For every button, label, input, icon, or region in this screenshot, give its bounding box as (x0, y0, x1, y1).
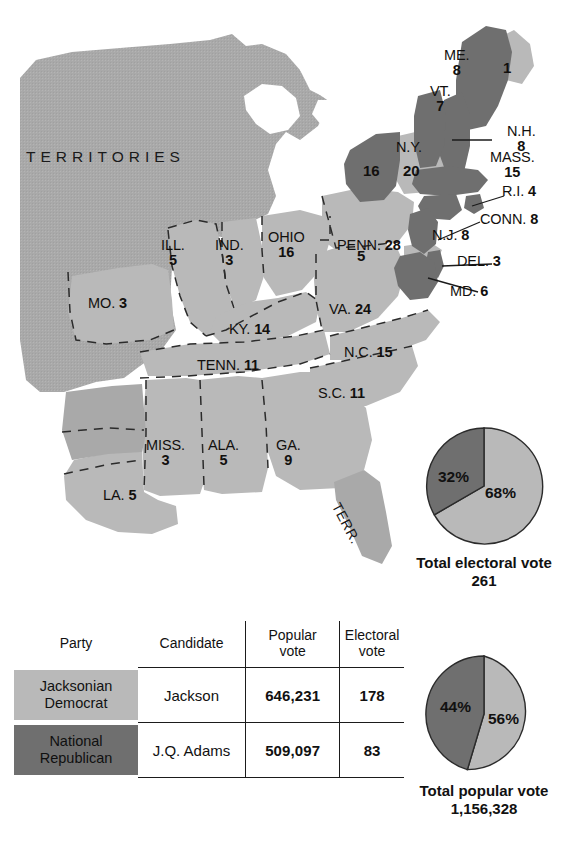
popular-pie-caption: Total popular vote (392, 782, 576, 800)
electoral-pie-graphic: 32% 68% (422, 424, 546, 548)
header-electoral-vote: Electoral vote (340, 621, 404, 668)
candidate-jq-adams: J.Q. Adams (138, 723, 246, 778)
popular-pie-total: 1,156,328 (392, 800, 576, 817)
state-label-mass: MASS. 15 (490, 150, 535, 180)
party-cell-national-republican: National Republican (14, 723, 138, 778)
electoral-vote-jq-adams: 83 (340, 723, 404, 778)
electoral-pie-adams-pct: 32% (438, 468, 469, 486)
party-name-line2: Republican (40, 750, 113, 767)
table-row: National Republican J.Q. Adams 509,097 8… (14, 723, 404, 778)
state-label-mo: MO. 3 (88, 296, 127, 311)
state-label-ny-jackson-votes: 20 (403, 163, 420, 179)
election-map-figure: TERRITORIES ME. 8 1 N.H. 8 VT. 7 MASS. 1… (0, 0, 579, 857)
popular-vote-jackson: 646,231 (246, 668, 340, 723)
state-label-miss: MISS. 3 (146, 438, 185, 468)
electoral-pie-caption: Total electoral vote (392, 554, 576, 572)
header-electoral-line1: Electoral (345, 627, 399, 643)
state-label-ri: R.I. 4 (502, 184, 536, 199)
table-row: Jacksonian Democrat Jackson 646,231 178 (14, 668, 404, 723)
state-label-vt: VT. 7 (430, 84, 451, 114)
state-label-ala: ALA. 5 (208, 438, 239, 468)
state-label-la: LA. 5 (103, 488, 136, 503)
header-party: Party (14, 621, 138, 668)
state-label-nj: N.J. 8 (432, 228, 469, 243)
party-name-line1: National (49, 733, 102, 750)
header-popular-line2: vote (279, 643, 305, 659)
popular-vote-pie-chart: 44% 56% Total popular vote 1,156,328 (392, 652, 576, 817)
state-label-ind: IND. 3 (215, 238, 244, 268)
state-label-md-jackson-votes: 5 (357, 248, 365, 264)
state-label-me-adams: 1 (503, 60, 511, 76)
state-label-sc: S.C. 11 (318, 386, 365, 401)
state-label-va: VA. 24 (329, 302, 371, 317)
party-swatch-jacksonian: Jacksonian Democrat (14, 670, 138, 720)
state-label-ny-adams-votes: 16 (363, 163, 380, 179)
electoral-vote-jackson: 178 (340, 668, 404, 723)
header-electoral-line2: vote (359, 643, 385, 659)
party-swatch-national-republican: National Republican (14, 725, 138, 775)
header-popular-vote: Popular vote (246, 621, 340, 668)
state-label-tenn: TENN. 11 (197, 358, 259, 373)
electoral-pie-total: 261 (392, 572, 576, 589)
state-label-ny: N.Y. (396, 140, 422, 155)
table-header-row: Party Candidate Popular vote Electoral v… (14, 621, 404, 668)
electoral-vote-pie-chart: 32% 68% Total electoral vote 261 (392, 424, 576, 589)
state-label-penn: PENN. 28 (337, 238, 401, 253)
state-label-me: ME. 8 (444, 48, 469, 78)
party-cell-jacksonian: Jacksonian Democrat (14, 668, 138, 723)
state-label-ohio: OHIO 16 (268, 230, 305, 260)
popular-pie-jackson-pct: 56% (488, 710, 519, 728)
popular-pie-adams-pct: 44% (440, 698, 471, 716)
territories-label: TERRITORIES (26, 148, 185, 166)
party-name-line2: Democrat (45, 695, 108, 712)
election-results-table: Party Candidate Popular vote Electoral v… (14, 621, 404, 778)
state-label-ill: ILL. 5 (161, 238, 185, 268)
header-popular-line1: Popular (268, 627, 316, 643)
state-label-md: MD. 6 (450, 284, 488, 299)
header-candidate: Candidate (138, 621, 246, 668)
popular-vote-jq-adams: 509,097 (246, 723, 340, 778)
popular-pie-graphic: 44% 56% (422, 652, 546, 776)
state-label-ga: GA. 9 (276, 438, 301, 468)
state-label-del: DEL. 3 (457, 254, 501, 269)
state-label-conn: CONN. 8 (480, 212, 538, 227)
party-name-line1: Jacksonian (40, 678, 113, 695)
state-label-nc: N.C. 15 (344, 345, 392, 360)
candidate-jackson: Jackson (138, 668, 246, 723)
electoral-pie-jackson-pct: 68% (485, 484, 516, 502)
state-label-ky: KY. 14 (229, 322, 270, 337)
